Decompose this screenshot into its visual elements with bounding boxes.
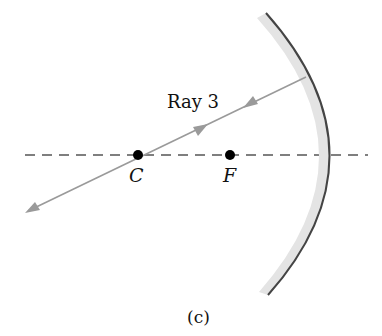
mirror-diagram: Ray 3 C F (c) xyxy=(0,0,382,336)
ray-label: Ray 3 xyxy=(167,91,219,112)
figure-caption: (c) xyxy=(187,307,210,327)
focal-point xyxy=(225,150,235,160)
ray-arrow-reflected-icon xyxy=(243,96,258,108)
center-label: C xyxy=(129,164,144,186)
ray-arrow-incident-icon xyxy=(193,124,208,136)
focus-label: F xyxy=(222,164,237,186)
center-of-curvature-point xyxy=(133,150,143,160)
ray-arrow-exit-icon xyxy=(25,202,40,213)
mirror-backing xyxy=(257,13,330,295)
